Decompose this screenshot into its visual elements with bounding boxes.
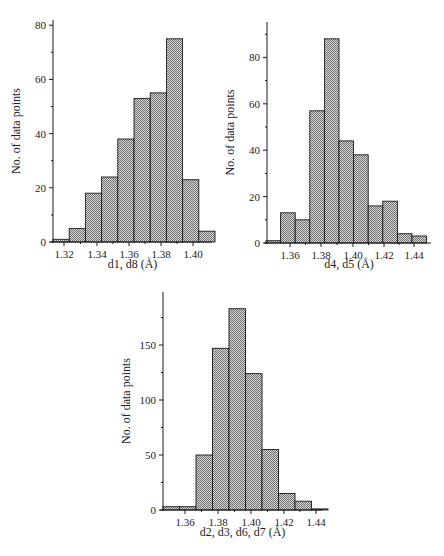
- x-axis-label: d2, d3, d6, d7 (Å): [200, 525, 286, 539]
- y-tick-label: 20: [249, 191, 261, 203]
- x-axis-label: d4, d5 (Å): [324, 257, 374, 271]
- y-tick-label: 80: [35, 19, 47, 31]
- y-axis-label: No. of data points: [119, 358, 133, 444]
- histogram-d2-d3-d6-d7: 1.35: 31.36: 31.37: 501.38: 1471.39: 183…: [119, 292, 328, 539]
- y-tick-label: 60: [35, 73, 47, 85]
- histogram-d4-d5: 1.35: 11.36: 131.37: 101.38: 571.39: 881…: [223, 22, 431, 271]
- histogram-bar: 1.43: 18: [383, 201, 398, 243]
- histogram-bar: 1.35: 38: [118, 139, 134, 242]
- y-tick-label: 20: [35, 182, 47, 194]
- y-tick-label: 0: [151, 504, 157, 516]
- histogram-bar: 1.40: 44: [339, 141, 354, 243]
- y-tick-label: 0: [41, 236, 47, 248]
- histogram-bar: 1.42: 16: [368, 206, 383, 243]
- histogram-bar: 1.39: 183: [229, 309, 246, 510]
- y-tick-label: 150: [140, 339, 157, 351]
- histogram-bar: 1.44: 4: [397, 234, 412, 243]
- y-tick-label: 40: [249, 144, 261, 156]
- y-tick-label: 80: [249, 51, 261, 63]
- x-tick-label: 1.36: [280, 249, 300, 261]
- y-axis-label: No. of data points: [9, 88, 23, 174]
- histogram-bar: 1.37: 10: [295, 220, 310, 243]
- histogram-bar: 1.36: 13: [281, 213, 296, 243]
- y-axis-label: No. of data points: [223, 89, 237, 175]
- histogram-d1-d8: 1.31: 11.32: 51.33: 181.34: 241.35: 381.…: [9, 19, 215, 271]
- histogram-bar: 1.32: 5: [69, 228, 85, 242]
- histogram-bar: 1.39: 23: [183, 180, 199, 242]
- histogram-bar: 1.37: 55: [150, 93, 166, 242]
- histogram-figure: 1.31: 11.32: 51.33: 181.34: 241.35: 381.…: [0, 0, 444, 556]
- x-tick-label: 1.42: [374, 249, 393, 261]
- histogram-bar: 1.43: 8: [295, 501, 312, 510]
- x-tick-label: 1.40: [183, 248, 203, 260]
- histogram-bar: 1.40: 124: [246, 374, 263, 510]
- histogram-bar: 1.37: 50: [196, 455, 213, 510]
- x-tick-label: 1.34: [87, 248, 107, 260]
- y-tick-label: 60: [249, 98, 261, 110]
- x-tick-label: 1.44: [404, 249, 424, 261]
- histogram-bar: 1.34: 24: [102, 177, 118, 242]
- y-tick-label: 0: [255, 237, 261, 249]
- histogram-bar: 1.40: 4: [199, 231, 215, 242]
- y-tick-label: 50: [145, 449, 157, 461]
- x-tick-label: 1.36: [175, 516, 195, 528]
- histogram-bar: 1.42: 15: [279, 494, 296, 511]
- histogram-bar: 1.36: 53: [134, 98, 150, 242]
- histogram-bar: 1.39: 88: [324, 39, 339, 243]
- histogram-bar: 1.38: 57: [310, 111, 325, 243]
- histogram-bar: 1.41: 55: [262, 450, 279, 511]
- y-tick-label: 100: [140, 394, 157, 406]
- x-tick-label: 1.44: [306, 516, 326, 528]
- histogram-bar: 1.41: 38: [354, 155, 369, 243]
- histogram-bar: 1.38: 147: [213, 348, 230, 510]
- y-tick-label: 40: [35, 128, 47, 140]
- histogram-bar: 1.38: 75: [166, 39, 182, 242]
- histogram-bar: 1.45: 3: [412, 236, 427, 243]
- x-axis-label: d1, d8 (Å): [108, 257, 158, 271]
- histogram-bar: 1.33: 18: [85, 193, 101, 242]
- x-tick-label: 1.32: [54, 248, 73, 260]
